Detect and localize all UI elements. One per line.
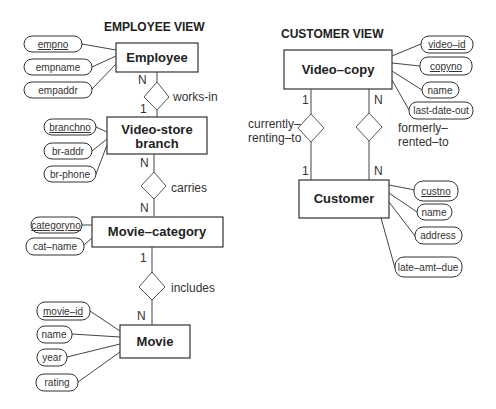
cardinality-label: 1: [140, 102, 147, 116]
attribute-custno: custno: [414, 181, 458, 201]
employee-view-title: EMPLOYEE VIEW: [104, 20, 205, 34]
svg-text:name: name: [421, 207, 446, 218]
relationship-currently-renting-to: currently– renting–to: [248, 114, 324, 145]
attribute-customer-name: name: [417, 204, 452, 220]
cardinality-label: N: [137, 309, 146, 323]
svg-text:video–id: video–id: [428, 39, 465, 50]
attribute-rating: rating: [36, 374, 78, 391]
attribute-empno: empno: [24, 36, 82, 52]
cardinality-label: N: [374, 164, 383, 178]
cardinality-label: 1: [140, 251, 147, 265]
svg-text:br-phone: br-phone: [50, 169, 90, 180]
svg-text:last-date-out: last-date-out: [413, 105, 469, 116]
attribute-empaddr: empaddr: [24, 82, 92, 98]
svg-text:address: address: [420, 230, 456, 241]
svg-text:works-in: works-in: [172, 90, 218, 104]
svg-text:year: year: [42, 352, 62, 363]
cardinality-label: 1: [302, 93, 309, 107]
svg-text:carries: carries: [171, 181, 207, 195]
svg-text:includes: includes: [171, 281, 215, 295]
svg-text:cat–name: cat–name: [33, 241, 77, 252]
attribute-late-amt-due: late–amt–due: [395, 257, 462, 277]
cardinality-label: N: [138, 73, 147, 87]
svg-text:copyno: copyno: [430, 61, 463, 72]
entity-employee: Employee: [116, 43, 198, 72]
attribute-copyno: copyno: [420, 57, 472, 75]
attribute-branchno: branchno: [44, 119, 96, 135]
svg-text:empno: empno: [38, 39, 69, 50]
customer-view-title: CUSTOMER VIEW: [281, 27, 384, 41]
attribute-movie-id: movie–id: [37, 302, 90, 320]
attribute-cat-name: cat–name: [26, 238, 84, 255]
svg-text:br-addr: br-addr: [52, 146, 85, 157]
entity-employee-label: Employee: [126, 50, 187, 65]
attribute-video-id: video–id: [421, 36, 473, 53]
cardinality-label: N: [140, 156, 149, 170]
relationship-includes: includes: [139, 272, 215, 300]
cardinality-label: N: [374, 93, 383, 107]
svg-text:currently–: currently–: [248, 117, 301, 131]
attribute-movie-name: name: [37, 326, 72, 343]
entity-customer: Customer: [299, 180, 389, 218]
attribute-last-date-out: last-date-out: [409, 102, 473, 119]
entity-movie-category: Movie–category: [92, 217, 223, 247]
svg-text:Video-store: Video-store: [121, 122, 192, 137]
svg-text:Movie–category: Movie–category: [108, 224, 207, 239]
svg-text:name: name: [427, 85, 452, 96]
svg-text:late–amt–due: late–amt–due: [398, 262, 459, 273]
svg-text:custno: custno: [421, 186, 451, 197]
er-diagram: EMPLOYEE VIEW Employee empno empname emp…: [0, 0, 496, 409]
svg-text:Customer: Customer: [314, 191, 375, 206]
cardinality-label: 1: [302, 164, 309, 178]
svg-text:categoryno: categoryno: [31, 220, 81, 231]
svg-text:branch: branch: [135, 136, 178, 151]
relationship-works-in: works-in: [144, 82, 218, 110]
svg-text:formerly–: formerly–: [398, 121, 448, 135]
entity-movie: Movie: [120, 325, 190, 358]
svg-text:name: name: [41, 329, 66, 340]
cardinality-label: N: [140, 201, 149, 215]
svg-text:movie–id: movie–id: [43, 306, 83, 317]
svg-text:empname: empname: [36, 62, 81, 73]
attribute-br-addr: br-addr: [44, 143, 92, 159]
attribute-categoryno: categoryno: [31, 217, 82, 233]
svg-text:empaddr: empaddr: [38, 85, 78, 96]
svg-text:renting–to: renting–to: [248, 131, 302, 145]
attribute-year: year: [37, 349, 67, 366]
relationship-carries: carries: [141, 172, 207, 199]
attribute-empname: empname: [24, 59, 92, 75]
svg-text:Movie: Movie: [137, 334, 174, 349]
entity-video-store-branch: Video-store branch: [107, 117, 207, 154]
attribute-video-name: name: [422, 82, 459, 98]
svg-text:Video–copy: Video–copy: [302, 62, 376, 77]
svg-text:rating: rating: [44, 377, 69, 388]
attribute-address: address: [415, 227, 462, 244]
svg-text:branchno: branchno: [49, 122, 91, 133]
attribute-br-phone: br-phone: [44, 166, 96, 182]
entity-video-copy: Video–copy: [284, 50, 392, 89]
svg-text:rented–to: rented–to: [398, 135, 449, 149]
